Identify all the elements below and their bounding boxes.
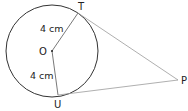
label-radius-OT: 4 cm <box>40 23 64 34</box>
tangent-UP <box>58 80 178 95</box>
centre-point-O <box>51 50 53 52</box>
label-P: P <box>181 75 187 86</box>
label-T: T <box>77 1 85 12</box>
label-U: U <box>54 99 61 110</box>
label-radius-OU: 4 cm <box>30 70 54 81</box>
tangent-TP <box>78 13 178 80</box>
tangent-circle-diagram: O T U P 4 cm 4 cm <box>0 0 188 111</box>
label-O: O <box>39 46 47 57</box>
